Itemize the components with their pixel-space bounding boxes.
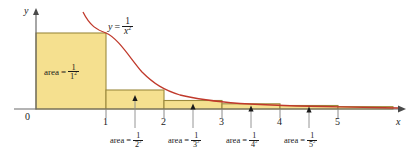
area-label-3-denominator-exponent: 2 xyxy=(197,139,200,144)
area-label-5-denominator-exponent: 2 xyxy=(313,139,316,144)
area-label-2-denominator-exponent: 2 xyxy=(139,139,142,144)
leader-line-5 xyxy=(306,107,311,129)
x-tick-label-5: 5 xyxy=(335,117,340,127)
area-label-1-denominator-exponent: 2 xyxy=(74,70,77,76)
curve-equation-lhs: y xyxy=(108,22,112,32)
area-label-2-equals: = xyxy=(126,136,131,145)
area-label-3-equals: = xyxy=(184,136,189,145)
area-rectangles xyxy=(36,33,393,109)
area-label-2-denominator: 22 xyxy=(133,141,144,149)
leader-line-2 xyxy=(132,95,137,128)
x-tick-label-3: 3 xyxy=(219,117,224,127)
y-axis-label: y xyxy=(24,6,28,16)
area-label-3-prefix: area xyxy=(168,136,182,145)
area-label-3: area = 1 32 xyxy=(168,132,201,149)
curve-equation-denominator-exponent: 2 xyxy=(128,25,131,31)
curve-equation-label: y = 1 x2 xyxy=(108,17,133,37)
area-label-5-denominator: 52 xyxy=(307,141,318,149)
area-label-5-fraction: 1 52 xyxy=(307,132,318,149)
area-label-5-equals: = xyxy=(300,136,305,145)
area-label-4-denominator-exponent: 2 xyxy=(255,139,258,144)
area-label-2-prefix: area xyxy=(110,136,124,145)
x-tick-label-1: 1 xyxy=(103,117,108,127)
curve-equation-denominator: x2 xyxy=(122,27,133,37)
area-label-1-denominator: 12 xyxy=(68,72,79,81)
x-tick-label-2: 2 xyxy=(161,117,166,127)
integral-test-figure: y x 0 1 2 3 4 5 y = 1 x2 area = 1 12 are… xyxy=(0,0,417,163)
area-label-3-denominator: 32 xyxy=(191,141,202,149)
figure-graphics xyxy=(0,0,417,163)
area-label-4-fraction: 1 42 xyxy=(249,132,260,149)
area-label-2-fraction: 1 22 xyxy=(133,132,144,149)
area-label-4-equals: = xyxy=(242,136,247,145)
curve-equation-fraction: 1 x2 xyxy=(122,17,133,37)
origin-label: 0 xyxy=(25,112,30,122)
area-label-1-fraction: 1 12 xyxy=(68,63,79,81)
x-axis-label: x xyxy=(396,117,400,127)
x-tick-label-4: 4 xyxy=(277,117,282,127)
area-label-4: area = 1 42 xyxy=(226,132,259,149)
area-label-2: area = 1 22 xyxy=(110,132,143,149)
area-label-5: area = 1 52 xyxy=(284,132,317,149)
area-label-4-denominator: 42 xyxy=(249,141,260,149)
area-label-1-prefix: area xyxy=(44,68,59,77)
area-label-5-prefix: area xyxy=(284,136,298,145)
area-label-1-equals: = xyxy=(61,68,66,77)
area-label-4-prefix: area xyxy=(226,136,240,145)
curve-equation-equals: = xyxy=(114,22,120,32)
area-label-1: area = 1 12 xyxy=(44,63,79,81)
area-label-3-fraction: 1 32 xyxy=(191,132,202,149)
